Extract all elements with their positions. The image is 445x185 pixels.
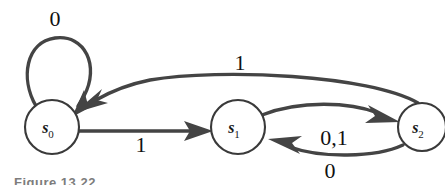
figure-caption: Figure 13.22 — [14, 176, 96, 185]
state-label-s0-subscript: 0 — [48, 128, 54, 140]
transition-label-s0-to-s0: 0 — [50, 6, 61, 31]
transition-label-s2-to-s0: 1 — [235, 50, 246, 75]
state-label-s2-subscript: 2 — [418, 128, 424, 140]
transition-label-s2-to-s1: 0 — [325, 158, 336, 183]
transition-label-s0-to-s1: 1 — [136, 132, 147, 157]
state-circle-s2 — [398, 103, 445, 151]
state-node-s1[interactable]: s1 — [211, 100, 265, 154]
state-label-s1-subscript: 1 — [234, 128, 240, 140]
transition-label-s1-to-s2: 0,1 — [320, 125, 348, 150]
state-label-s1-name: s — [227, 119, 234, 136]
state-circle-s1 — [211, 100, 265, 154]
transition-s1-to-s2-path — [262, 104, 378, 115]
transition-s2-to-s0-path — [96, 74, 418, 103]
state-node-s0[interactable]: s0 — [25, 100, 79, 154]
transition-s1-to-s2-arrowhead — [365, 105, 400, 123]
transition-s1-to-s2 — [262, 104, 400, 123]
state-diagram: s0 s1 s2 0 1 0,1 0 1 — [0, 0, 445, 185]
transition-s2-to-s1-arrowhead — [268, 136, 302, 154]
state-circle-s0 — [25, 100, 79, 154]
figure-container: s0 s1 s2 0 1 0,1 0 1 Figure 13.22 — [0, 0, 445, 185]
transition-s0-to-s0-path — [27, 38, 90, 106]
state-label-s0-name: s — [41, 119, 48, 136]
state-label-s2-name: s — [411, 119, 418, 136]
state-node-s2[interactable]: s2 — [398, 103, 445, 151]
